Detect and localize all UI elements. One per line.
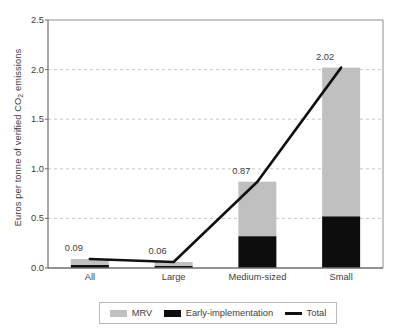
legend-label: Early-implementation xyxy=(186,308,273,318)
data-label: 0.87 xyxy=(232,166,250,176)
legend-label: MRV xyxy=(132,308,153,318)
chart-legend: MRVEarly-implementationTotal xyxy=(99,302,337,324)
bar-segment-mrv xyxy=(322,68,360,217)
data-label: 0.09 xyxy=(65,243,83,253)
legend-box-swatch xyxy=(164,310,181,317)
x-tick-label: All xyxy=(85,272,95,282)
x-tick-label: Medium-sized xyxy=(228,272,286,282)
plot-area xyxy=(0,0,401,334)
bar-segment-early-implementation xyxy=(322,216,360,268)
data-label: 2.02 xyxy=(316,52,334,62)
legend-box-swatch xyxy=(110,310,127,317)
legend-entry[interactable]: Early-implementation xyxy=(164,308,273,318)
legend-entry[interactable]: Total xyxy=(285,308,327,318)
bar-segment-early-implementation xyxy=(238,236,276,268)
bar-segment-mrv xyxy=(238,182,276,237)
data-label: 0.06 xyxy=(149,246,167,256)
x-tick-label: Small xyxy=(330,272,353,282)
legend-label: Total xyxy=(307,308,327,318)
x-tick-label: Large xyxy=(162,272,186,282)
legend-line-swatch xyxy=(285,312,302,315)
chart-figure: Euros per tonne of verified CO2 emission… xyxy=(0,0,401,334)
legend-entry[interactable]: MRV xyxy=(110,308,153,318)
